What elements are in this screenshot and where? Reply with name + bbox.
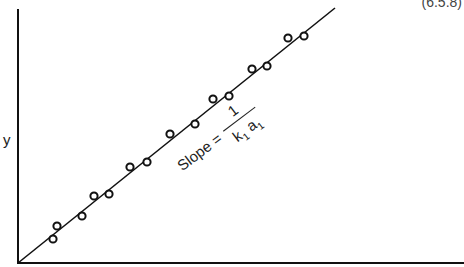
- data-point: [78, 212, 85, 219]
- data-point: [126, 163, 133, 170]
- data-point: [166, 130, 173, 137]
- data-point: [263, 62, 270, 69]
- data-points: [49, 32, 307, 242]
- data-point: [248, 65, 255, 72]
- data-point: [225, 92, 232, 99]
- equation-number: (6.5.8): [422, 0, 462, 10]
- data-point: [209, 95, 216, 102]
- y-axis-label: y: [3, 131, 11, 148]
- data-point: [300, 32, 307, 39]
- data-point: [284, 34, 291, 41]
- data-point: [143, 158, 150, 165]
- data-point: [105, 190, 112, 197]
- data-point: [49, 235, 56, 242]
- data-point: [90, 192, 97, 199]
- data-point: [53, 222, 60, 229]
- fit-line: [18, 8, 335, 263]
